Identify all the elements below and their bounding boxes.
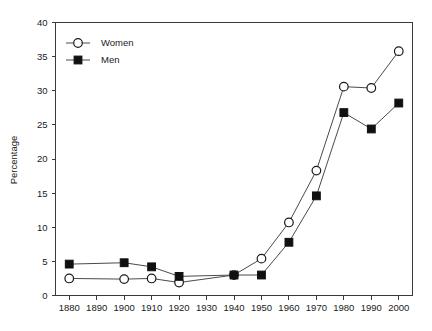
y-tick-label: 35	[37, 51, 48, 62]
data-point-men-1950	[258, 271, 266, 279]
data-series-layer	[65, 47, 403, 287]
x-tick-label: 1970	[306, 302, 327, 313]
legend-label-women: Women	[101, 37, 134, 48]
y-axis-title-label: Percentage	[8, 136, 19, 185]
x-tick-label: 1890	[86, 302, 107, 313]
data-point-men-2000	[395, 99, 403, 107]
data-point-women-1990	[367, 84, 376, 93]
x-tick-label: 1940	[223, 302, 244, 313]
data-point-women-1960	[285, 218, 294, 227]
data-point-women-1900	[120, 275, 129, 284]
data-point-men-1910	[148, 263, 156, 271]
y-tick-label: 25	[37, 119, 48, 130]
data-point-legend-women	[74, 39, 83, 48]
data-point-men-1880	[65, 260, 73, 268]
y-tick-label: 10	[37, 222, 48, 233]
chart-legend: WomenMen	[66, 37, 134, 65]
data-point-women-1970	[312, 166, 321, 175]
markers-women	[65, 47, 403, 287]
data-point-men-1940	[230, 271, 238, 279]
legend-item-women: Women	[66, 37, 134, 48]
x-tick-label: 1920	[169, 302, 190, 313]
y-axis-title: Percentage	[8, 136, 19, 185]
y-axis-ticks: 0510152025303540	[37, 17, 56, 301]
y-tick-label: 15	[37, 188, 48, 199]
x-axis-ticks: 1880189019001910192019301940195019601970…	[59, 296, 410, 313]
x-tick-label: 1910	[141, 302, 162, 313]
data-point-men-1970	[312, 192, 320, 200]
x-tick-label: 2000	[388, 302, 409, 313]
x-tick-label: 1960	[278, 302, 299, 313]
series-line-women	[69, 51, 399, 282]
data-point-women-1880	[65, 274, 74, 283]
y-tick-label: 5	[42, 256, 47, 267]
data-point-men-1980	[340, 109, 348, 117]
x-tick-label: 1990	[361, 302, 382, 313]
data-point-men-1990	[367, 125, 375, 133]
data-point-women-1910	[147, 274, 156, 283]
x-tick-label: 1950	[251, 302, 272, 313]
chart-container: 0510152025303540 18801890190019101920193…	[0, 0, 432, 331]
data-point-women-1950	[257, 254, 266, 263]
y-tick-label: 30	[37, 85, 48, 96]
data-point-men-1920	[175, 272, 183, 280]
series-women	[69, 51, 399, 282]
line-chart: 0510152025303540 18801890190019101920193…	[0, 0, 432, 331]
markers-men	[65, 99, 402, 280]
data-point-women-2000	[394, 47, 403, 56]
x-tick-label: 1880	[59, 302, 80, 313]
legend-item-men: Men	[66, 54, 119, 65]
y-tick-label: 20	[37, 153, 48, 164]
data-point-men-1900	[120, 259, 128, 267]
data-point-men-1960	[285, 238, 293, 246]
data-point-women-1980	[340, 82, 349, 91]
x-tick-label: 1980	[333, 302, 354, 313]
data-point-legend-men	[74, 56, 82, 64]
x-tick-label: 1930	[196, 302, 217, 313]
series-line-men	[69, 103, 399, 276]
y-tick-label: 0	[42, 290, 47, 301]
x-tick-label: 1900	[114, 302, 135, 313]
legend-label-men: Men	[101, 54, 119, 65]
y-tick-label: 40	[37, 17, 48, 28]
series-men	[69, 103, 399, 276]
